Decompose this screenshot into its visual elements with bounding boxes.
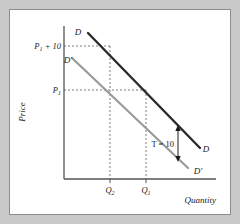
gridlines bbox=[64, 46, 146, 179]
axes bbox=[64, 26, 216, 179]
y-tick-label-p1: P1 bbox=[52, 85, 61, 96]
curve-label-d-start: D bbox=[74, 27, 82, 37]
demand-curve-chart: Price Quantity P1 + 10 P1 Q2 Q1 D D D' D… bbox=[0, 0, 240, 224]
x-tick-label-q2: Q2 bbox=[105, 185, 114, 196]
y-tick-p1-plus-10-tail: + 10 bbox=[43, 41, 62, 51]
tax-wedge-arrow bbox=[175, 125, 180, 162]
curve-label-d-prime-start: D' bbox=[63, 55, 73, 65]
x-tick-q1-sub: 1 bbox=[148, 190, 151, 196]
figure-root: Price Quantity P1 + 10 P1 Q2 Q1 D D D' D… bbox=[0, 0, 240, 224]
curve-label-d-prime-end: D' bbox=[193, 166, 203, 176]
y-axis-label: Price bbox=[17, 102, 27, 123]
tax-wedge-label: T = 10 bbox=[151, 139, 174, 149]
x-axis-label: Quantity bbox=[185, 195, 217, 205]
y-tick-p1-sub: 1 bbox=[58, 90, 61, 96]
y-tick-label-p1-plus-10: P1 + 10 bbox=[33, 41, 61, 52]
x-tick-label-q1: Q1 bbox=[141, 185, 150, 196]
x-tick-q2-sub: 2 bbox=[112, 190, 115, 196]
curve-label-d-end: D bbox=[202, 144, 210, 154]
